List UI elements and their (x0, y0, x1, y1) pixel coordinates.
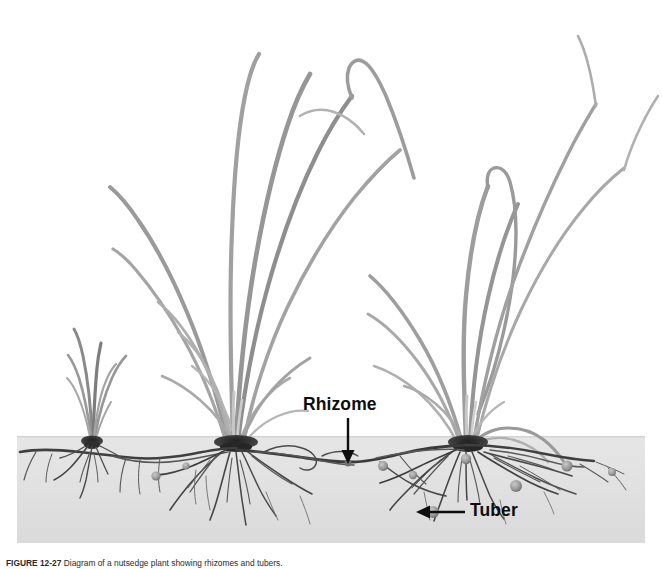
tuber-node (182, 462, 189, 469)
tuber-node (461, 454, 471, 464)
rhizome-label: Rhizome (303, 396, 377, 414)
illustration-svg (0, 0, 662, 552)
caption-body: Diagram of a nutsedge plant showing rhiz… (64, 558, 283, 568)
tuber-label: Tuber (470, 502, 518, 520)
tuber-node (378, 461, 388, 471)
nutsedge-illustration (0, 0, 662, 552)
caption-text-line: FIGURE 12-27 Diagram of a nutsedge plant… (6, 558, 646, 568)
plant-seedling (67, 329, 126, 449)
plant-mature-right (368, 36, 658, 462)
tuber-node (561, 460, 572, 471)
caption-number: FIGURE 12-27 (6, 558, 61, 568)
plant-mature-center (110, 54, 414, 452)
figure-caption: FIGURE 12-27 Diagram of a nutsedge plant… (6, 558, 646, 569)
tuber-node (409, 471, 417, 479)
tuber-node (151, 471, 160, 480)
figure-container: Rhizome Tuber FIGURE 12-27 Diagram of a … (0, 0, 662, 569)
tuber-node (608, 468, 616, 476)
tuber-node (510, 480, 522, 492)
